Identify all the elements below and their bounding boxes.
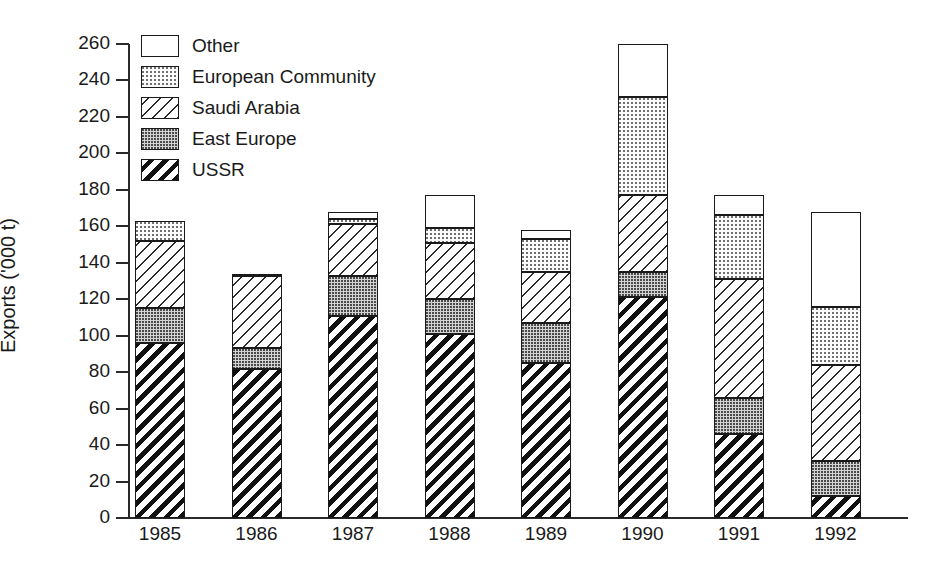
- y-tick: [116, 371, 129, 373]
- bar-segment-east-europe: [232, 348, 282, 368]
- bar-segment-european-community: [618, 97, 668, 195]
- plot-area: 020406080100120140160180200220240260 198…: [0, 0, 925, 571]
- bar-segment-ussr: [811, 496, 861, 518]
- bar-segment-ussr: [328, 316, 378, 518]
- legend-item-label: Saudi Arabia: [192, 97, 300, 119]
- y-tick: [116, 116, 129, 118]
- legend-item-saudi-arabia[interactable]: Saudi Arabia: [141, 96, 376, 119]
- y-tick-label: 260: [40, 32, 110, 54]
- y-tick: [116, 43, 129, 45]
- x-tick-label-1989: 1989: [511, 523, 581, 545]
- x-tick-label-1992: 1992: [801, 523, 871, 545]
- legend-item-other[interactable]: Other: [141, 34, 376, 57]
- y-tick-label: 160: [40, 214, 110, 236]
- x-tick-label-1986: 1986: [222, 523, 292, 545]
- y-tick-label: 120: [40, 287, 110, 309]
- y-tick: [116, 481, 129, 483]
- y-tick: [116, 225, 129, 227]
- bar-segment-ussr: [232, 369, 282, 518]
- bar-segment-european-community: [425, 228, 475, 243]
- x-tick-label-1987: 1987: [318, 523, 388, 545]
- y-tick: [116, 152, 129, 154]
- bar-1991: [714, 0, 764, 571]
- y-tick-label: 240: [40, 68, 110, 90]
- legend: OtherEuropean CommunitySaudi ArabiaEast …: [141, 34, 376, 181]
- x-tick-label-1991: 1991: [704, 523, 774, 545]
- bar-segment-other: [328, 212, 378, 219]
- bar-segment-ussr: [618, 297, 668, 518]
- y-tick-label: 0: [40, 506, 110, 528]
- y-tick-label: 140: [40, 251, 110, 273]
- legend-item-ussr[interactable]: USSR: [141, 158, 376, 181]
- bar-segment-european-community: [232, 274, 282, 276]
- bar-1989: [521, 0, 571, 571]
- x-tick-label-1990: 1990: [608, 523, 678, 545]
- bar-segment-east-europe: [521, 323, 571, 363]
- bar-segment-east-europe: [618, 272, 668, 298]
- legend-swatch-icon: [141, 97, 179, 119]
- bar-segment-east-europe: [328, 276, 378, 316]
- y-tick-label: 200: [40, 141, 110, 163]
- bar-segment-european-community: [521, 239, 571, 272]
- bar-segment-saudi-arabia: [135, 241, 185, 308]
- bar-1992: [811, 0, 861, 571]
- legend-swatch-icon: [141, 35, 179, 57]
- bar-segment-other: [811, 212, 861, 307]
- bar-segment-saudi-arabia: [618, 195, 668, 272]
- bar-segment-other: [618, 44, 668, 97]
- y-tick: [116, 79, 129, 81]
- bar-segment-saudi-arabia: [714, 279, 764, 398]
- bar-1990: [618, 0, 668, 571]
- bar-segment-east-europe: [135, 308, 185, 343]
- bar-segment-east-europe: [811, 461, 861, 496]
- bar-segment-saudi-arabia: [425, 243, 475, 300]
- bar-segment-european-community: [811, 307, 861, 365]
- legend-item-label: Other: [192, 35, 240, 57]
- y-tick-label: 20: [40, 470, 110, 492]
- legend-item-east-europe[interactable]: East Europe: [141, 127, 376, 150]
- bar-segment-other: [425, 195, 475, 228]
- legend-item-label: European Community: [192, 66, 376, 88]
- bar-segment-ussr: [425, 334, 475, 518]
- bar-segment-ussr: [714, 434, 764, 518]
- y-tick-label: 220: [40, 105, 110, 127]
- x-tick-label-1988: 1988: [415, 523, 485, 545]
- bar-segment-saudi-arabia: [811, 365, 861, 462]
- y-tick-label: 100: [40, 324, 110, 346]
- y-tick: [116, 444, 129, 446]
- bar-segment-other: [521, 230, 571, 239]
- bar-segment-saudi-arabia: [232, 276, 282, 349]
- stacked-bar-chart: Exports ('000 t) 02040608010012014016018…: [0, 0, 925, 571]
- x-tick-label-1985: 1985: [125, 523, 195, 545]
- legend-swatch-icon: [141, 66, 179, 88]
- legend-swatch-icon: [141, 159, 179, 181]
- y-tick: [116, 517, 129, 519]
- bar-segment-european-community: [135, 221, 185, 241]
- bar-segment-european-community: [714, 215, 764, 279]
- y-tick-label: 60: [40, 397, 110, 419]
- y-tick-label: 180: [40, 178, 110, 200]
- y-tick-label: 40: [40, 433, 110, 455]
- y-tick: [116, 189, 129, 191]
- legend-swatch-icon: [141, 128, 179, 150]
- bar-segment-saudi-arabia: [521, 272, 571, 323]
- bar-segment-saudi-arabia: [328, 224, 378, 275]
- bar-segment-european-community: [328, 219, 378, 224]
- y-tick: [116, 335, 129, 337]
- bar-segment-ussr: [521, 363, 571, 518]
- bar-segment-east-europe: [714, 398, 764, 434]
- bar-segment-other: [714, 195, 764, 215]
- y-tick: [116, 408, 129, 410]
- y-tick: [116, 262, 129, 264]
- y-tick-label: 80: [40, 360, 110, 382]
- legend-item-european-community[interactable]: European Community: [141, 65, 376, 88]
- bar-1988: [425, 0, 475, 571]
- legend-item-label: East Europe: [192, 128, 297, 150]
- y-tick: [116, 298, 129, 300]
- bar-segment-east-europe: [425, 299, 475, 334]
- bar-segment-ussr: [135, 343, 185, 518]
- legend-item-label: USSR: [192, 159, 245, 181]
